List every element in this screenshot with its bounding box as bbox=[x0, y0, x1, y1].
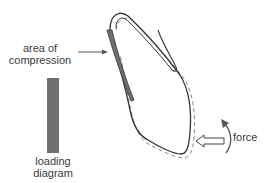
compression-label-line1: area of bbox=[2, 42, 78, 54]
rotation-arrow bbox=[221, 119, 231, 153]
loading-diagram-label: loading diagram bbox=[22, 155, 84, 179]
loading-diagram-bar bbox=[47, 78, 59, 153]
compression-zone bbox=[107, 30, 134, 101]
compression-pointer-arrow bbox=[78, 50, 108, 55]
area-of-compression-label: area of compression bbox=[2, 42, 78, 66]
diagram-canvas: area of compression loading diagram forc… bbox=[0, 0, 270, 183]
force-label: force bbox=[233, 131, 257, 143]
tooth-outline bbox=[110, 13, 191, 154]
compression-label-line2: compression bbox=[2, 54, 78, 66]
loading-label-line1: loading bbox=[22, 155, 84, 167]
loading-label-line2: diagram bbox=[22, 167, 84, 179]
force-arrow bbox=[196, 135, 224, 147]
